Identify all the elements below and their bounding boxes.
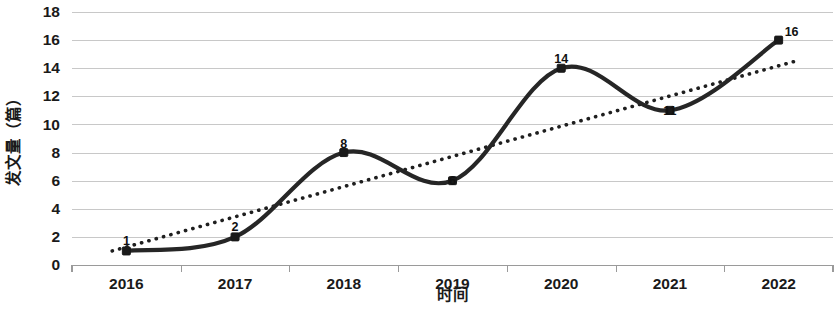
y-tick-label: 14 [43, 59, 61, 76]
data-point-label: 1 [123, 234, 130, 248]
data-point-label: 8 [340, 137, 347, 151]
data-point-label: 16 [785, 25, 799, 39]
x-tick-label: 2016 [109, 275, 144, 292]
x-tick-label: 2020 [544, 275, 578, 292]
y-tick-label: 12 [43, 87, 60, 104]
y-tick-label: 4 [51, 200, 60, 217]
y-tick-label: 6 [51, 172, 60, 189]
data-point-label: 2 [232, 220, 239, 234]
y-axis-title: 发文量（篇） [4, 90, 22, 187]
y-tick-label: 16 [43, 31, 61, 48]
x-tick-label: 2021 [653, 275, 688, 292]
line-chart-figure: 024681012141618 201620172018201920202021… [0, 0, 835, 315]
x-tick-label: 2022 [761, 275, 795, 292]
data-point-label: 14 [554, 52, 568, 66]
data-point-marker [122, 247, 130, 255]
x-tick-label: 2018 [327, 275, 362, 292]
chart-canvas: 024681012141618 201620172018201920202021… [0, 0, 835, 315]
y-tick-label: 10 [43, 116, 60, 133]
data-point-label: 11 [663, 104, 676, 118]
x-axis-title: 时间 [437, 285, 469, 303]
y-tick-label: 8 [51, 144, 60, 161]
y-tick-label: 0 [51, 256, 60, 273]
chart-background [0, 0, 835, 315]
data-point-marker [775, 36, 783, 44]
x-tick-label: 2017 [218, 275, 252, 292]
y-tick-label: 2 [51, 228, 60, 245]
data-point-label: 6 [449, 174, 456, 188]
y-tick-label: 18 [43, 3, 61, 20]
data-point-marker [231, 233, 239, 241]
